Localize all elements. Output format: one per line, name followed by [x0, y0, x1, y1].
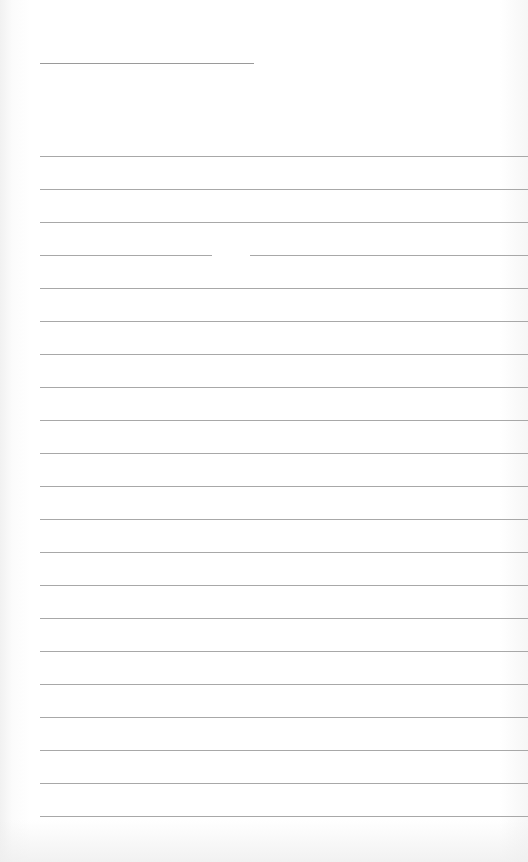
ruled-line — [40, 255, 528, 256]
ruled-line — [40, 618, 528, 619]
ruled-line — [40, 222, 528, 223]
ruled-line — [40, 816, 528, 817]
lined-paper-page — [0, 0, 528, 862]
ruled-line — [40, 420, 528, 421]
ruled-line — [40, 156, 528, 157]
ruled-line — [40, 717, 528, 718]
ruled-line — [40, 387, 528, 388]
ruled-line — [40, 189, 528, 190]
ruled-line — [40, 684, 528, 685]
ruled-line — [40, 321, 528, 322]
ruled-line — [40, 585, 528, 586]
bottom-shadow — [0, 820, 528, 862]
line-gap — [212, 254, 250, 257]
ruled-line — [40, 486, 528, 487]
ruled-line — [40, 750, 528, 751]
ruled-line — [40, 552, 528, 553]
ruled-line — [40, 519, 528, 520]
ruled-line — [40, 453, 528, 454]
header-line — [40, 63, 254, 64]
ruled-line — [40, 651, 528, 652]
ruled-line — [40, 783, 528, 784]
ruled-line — [40, 354, 528, 355]
ruled-line — [40, 288, 528, 289]
